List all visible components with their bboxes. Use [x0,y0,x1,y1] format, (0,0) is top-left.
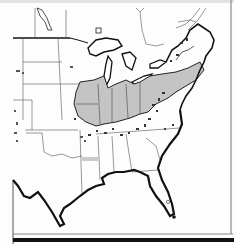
island-marker [96,28,101,33]
state-border [80,130,82,196]
lake-huron [122,52,136,70]
state-border [98,136,100,180]
shaded-region [74,62,204,126]
state-border [112,136,114,172]
southern-coastline [13,110,182,226]
state-border [126,134,132,172]
lake-superior [88,38,122,56]
hudson-coast [136,8,144,12]
map-frame [0,0,234,246]
province-border [140,12,164,46]
state-border [58,38,62,120]
bottom-bar [13,238,234,242]
florida-keys [172,215,176,219]
eastern-us-map [0,0,234,246]
oklahoma-border [42,133,82,158]
canada-border-east [70,38,88,43]
state-border [146,138,160,160]
river-line [178,20,196,22]
mountain-detail [176,46,194,60]
lake-ontario [150,60,166,68]
lake-winnipeg [37,8,52,30]
lake-okeechobee [166,200,169,203]
